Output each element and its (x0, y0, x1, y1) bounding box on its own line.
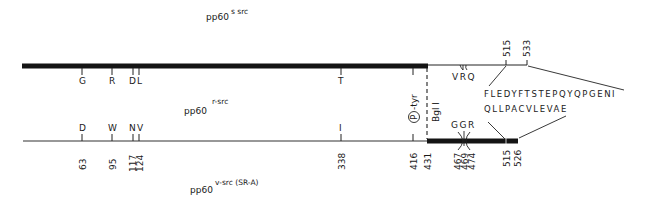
position-431: 431 (423, 153, 433, 170)
bottom-residue-D: D (79, 123, 86, 133)
top-thick-segment (22, 64, 428, 69)
position-526: 526 (513, 150, 523, 167)
bottom-residue-I: I (339, 123, 342, 133)
bottom-cluster-residues: GGR (451, 120, 476, 130)
top-cluster-residues: VRQ (452, 72, 476, 82)
top-residue-R: R (109, 76, 115, 86)
bottom-thick-segment (427, 139, 518, 144)
position-515: 515 (502, 150, 512, 167)
title-top-superscript: s src (231, 7, 248, 16)
position-63: 63 (78, 159, 88, 170)
src-protein-comparison-diagram: pp60 s src G R D L T VRQ 515 533 FLEDYFT… (0, 0, 647, 199)
title-middle-superscript: r-src (212, 97, 228, 106)
position-124: 124 (135, 155, 145, 172)
top-number-515: 515 (502, 40, 512, 57)
position-95: 95 (108, 159, 118, 170)
title-middle-base: pp60 (184, 106, 207, 116)
position-474: 474 (467, 153, 477, 170)
bottom-protein: D W N V I GGR QLLPACVLEVAE 63 95 117 124… (23, 104, 568, 172)
phospho-text: -tyr (409, 94, 419, 110)
phospho-tyr-annotation: P -tyr (409, 94, 420, 123)
bottom-residue-V: V (137, 123, 144, 133)
top-protein: G R D L T VRQ 515 533 FLEDYFTSTEPQYQPGEN… (22, 40, 624, 99)
bottom-residue-N: N (129, 123, 136, 133)
top-residue-L: L (137, 76, 142, 86)
top-residue-D: D (129, 76, 136, 86)
top-cluster-bracket (460, 65, 467, 70)
title-bottom-base: pp60 (190, 185, 213, 195)
top-residue-G: G (79, 76, 86, 86)
bottom-expansion-line-left (488, 122, 505, 139)
top-residue-T: T (337, 76, 344, 86)
bottom-residue-W: W (108, 123, 117, 133)
bottom-c-terminal-sequence: QLLPACVLEVAE (484, 104, 568, 114)
top-number-533: 533 (522, 40, 532, 57)
title-bottom-superscript: v-src (SR-A) (215, 178, 259, 187)
top-expansion-line-left (489, 66, 506, 86)
phospho-letter: P (409, 114, 419, 120)
restriction-site-label: Bgl I (431, 102, 441, 122)
position-416: 416 (409, 153, 419, 170)
title-top-base: pp60 (206, 12, 229, 22)
bottom-expansion-line-right (519, 116, 566, 138)
position-338: 338 (337, 153, 347, 170)
top-c-terminal-sequence: FLEDYFTSTEPQYQPGENI (484, 89, 616, 99)
top-expansion-line-right (528, 66, 624, 90)
